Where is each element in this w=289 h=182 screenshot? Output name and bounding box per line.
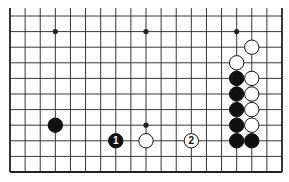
white-stone: 2	[184, 134, 198, 148]
white-stone	[229, 56, 243, 70]
black-stone	[245, 134, 259, 148]
white-stone	[245, 71, 259, 85]
black-stone	[229, 118, 243, 132]
star-point	[234, 29, 239, 34]
black-stone	[229, 102, 243, 116]
white-stone	[245, 40, 259, 54]
star-point	[143, 123, 148, 128]
white-stone	[139, 134, 153, 148]
black-stone	[229, 134, 243, 148]
move-number-label: 1	[113, 135, 119, 146]
black-stone	[229, 71, 243, 85]
white-stone	[245, 118, 259, 132]
black-stone	[48, 118, 62, 132]
go-board: 12	[0, 0, 289, 182]
star-point	[53, 29, 58, 34]
white-stone	[245, 87, 259, 101]
black-stone	[229, 87, 243, 101]
star-point	[143, 29, 148, 34]
white-stone	[245, 102, 259, 116]
move-number-label: 2	[189, 135, 195, 146]
black-stone: 1	[109, 134, 123, 148]
